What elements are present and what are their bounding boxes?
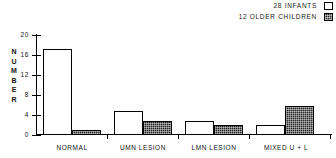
y-axis-tick-label: 0	[25, 131, 29, 138]
y-axis-title-letter: B	[11, 76, 16, 86]
y-axis-tick: 0	[32, 135, 41, 136]
x-axis-label-mixed: MIXED U + L	[264, 144, 308, 151]
y-axis-title-letter: E	[12, 85, 17, 95]
y-axis-tick-label: 4	[25, 111, 29, 118]
y-axis-tick-label: 20	[21, 31, 29, 38]
legend-label-infants: 28 INFANTS	[274, 2, 317, 10]
x-axis-label-normal: NORMAL	[56, 144, 87, 151]
y-axis-tick-label: 12	[21, 71, 29, 78]
bar-series-container	[36, 39, 332, 135]
x-axis-category-labels: NORMAL UMN LESION LMN LESION MIXED U + L	[36, 144, 332, 156]
legend-label-older-children: 12 OLDER CHILDREN	[239, 13, 317, 21]
bar-children-umn	[143, 121, 172, 135]
bar-infants-umn	[114, 111, 143, 135]
legend-entry-infants: 28 INFANTS	[274, 2, 333, 10]
y-axis-tick: 20	[32, 35, 41, 36]
y-axis-tick-label: 8	[25, 91, 29, 98]
bar-children-normal	[72, 130, 101, 135]
bar-infants-mixed	[256, 125, 285, 135]
bar-children-mixed	[285, 106, 314, 135]
y-axis-title-letter: N	[11, 47, 16, 57]
bar-infants-lmn	[185, 121, 214, 135]
y-axis-title-letter: R	[11, 95, 16, 105]
legend-entry-older-children: 12 OLDER CHILDREN	[239, 13, 333, 21]
legend-swatch-infants-icon	[324, 2, 333, 10]
y-axis-title-letter: U	[11, 57, 16, 67]
y-axis-title: N U M B E R	[9, 47, 19, 104]
bar-children-lmn	[214, 125, 243, 135]
chart-legend: 28 INFANTS 12 OLDER CHILDREN	[239, 2, 333, 21]
plot-axes: 0 4 8 12 16 20	[36, 34, 332, 140]
y-axis-tick-label: 16	[21, 51, 29, 58]
legend-swatch-older-children-icon	[324, 13, 333, 21]
x-axis-label-umn: UMN LESION	[120, 144, 166, 151]
y-axis-title-letter: M	[11, 66, 17, 76]
bar-chart: N U M B E R 0 4 8 12 16 20	[0, 28, 336, 158]
x-axis-label-lmn: LMN LESION	[192, 144, 237, 151]
bar-infants-normal	[43, 49, 72, 135]
